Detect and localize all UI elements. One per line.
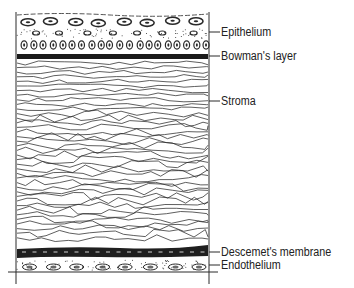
speckle [163,268,164,269]
speckle [103,262,104,263]
cell-nucleus [205,43,207,47]
stroma-layer [17,61,208,242]
cell-nucleus [167,43,169,47]
speckle [34,29,35,30]
speckle [205,33,206,34]
descemets-membrane-layer [17,245,208,258]
speckle [181,36,182,37]
stroma-lamella [17,93,208,97]
cell-nucleus [100,266,106,269]
speckle [162,267,163,268]
speckle [84,31,85,32]
speckle [21,32,22,33]
stroma-lamella [17,110,208,117]
speckle [158,32,159,33]
speckle [111,33,112,34]
speckle [146,33,147,34]
speckle [65,261,66,262]
speckle [62,35,63,36]
stroma-lamella [17,197,208,205]
stroma-lamella [17,107,208,111]
cell-nucleus [147,266,153,269]
speckle [193,31,194,32]
speckle [122,35,123,36]
stroma-lamella [17,124,208,131]
label-leader-lines [209,32,220,265]
cell-nucleus [122,266,128,269]
speckle [183,31,184,32]
cell-nucleus [74,21,78,23]
speckle [161,33,162,34]
speckle [175,33,176,34]
speckle [150,35,151,36]
speckle [151,36,152,37]
speckle [141,263,142,264]
cell-nucleus [157,43,159,47]
cell-nucleus [50,266,56,269]
stroma-lamella [17,61,208,65]
stroma-lamella [17,175,208,182]
speckle [73,36,74,37]
speckle [88,266,89,267]
speckle [82,267,83,268]
speckle [30,30,31,31]
speckle [26,31,27,32]
stroma-lamella [17,160,208,167]
speckle [99,262,100,263]
stroma-lamella [17,206,208,214]
cell-nucleus [196,43,198,47]
stroma-lamella [17,70,208,74]
label-descemets-membrane: Descemet's membrane [221,245,331,259]
speckle [43,30,44,31]
cell-nucleus [74,266,80,269]
speckle [42,31,43,32]
speckle [96,29,97,30]
speckle [45,261,46,262]
speckle [166,261,167,262]
speckle [182,268,183,269]
stroma-lamella [17,229,208,237]
speckle [92,269,93,270]
cell-nucleus [52,43,54,47]
stroma-lamella [17,137,208,144]
cell-nucleus [42,43,44,47]
speckle [190,34,191,35]
cell-nucleus [62,43,64,47]
speckle [135,269,136,270]
speckle [34,260,35,261]
speckle [206,35,207,36]
cell-nucleus [80,43,82,47]
speckle [85,34,86,35]
cell-nucleus [145,22,149,24]
speckle [46,36,47,37]
cell-nucleus [139,43,141,47]
stroma-lamella [17,88,208,92]
speckle [100,31,101,32]
label-bowmans-layer: Bowman's layer [221,49,297,63]
speckle [164,265,165,266]
speckle [166,263,167,264]
speckle [185,263,186,264]
epithelium-surface-line [17,14,208,17]
cell-nucleus [100,43,102,47]
cell-nucleus [109,43,111,47]
speckle [164,32,165,33]
speckle [101,29,102,30]
speckle [199,29,200,30]
speckle [183,34,184,35]
speckle [24,29,25,30]
cell-nucleus [129,43,131,47]
speckle [22,262,23,263]
speckle [183,265,184,266]
stroma-lamella [17,103,208,107]
bowmans-layer [17,54,208,59]
speckle [119,266,120,267]
cell-nucleus [172,266,178,269]
speckle [185,33,186,34]
stroma-lamella [17,84,208,88]
speckle [92,35,93,36]
speckle [106,30,107,31]
speckle [139,31,140,32]
cell-nucleus [148,43,150,47]
speckle [96,33,97,34]
